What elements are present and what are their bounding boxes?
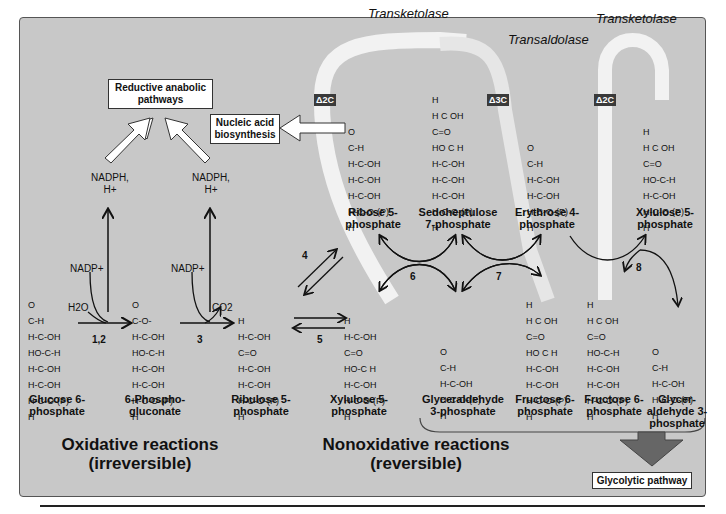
- nadp-label-2: NADP+: [171, 263, 205, 275]
- reaction-number-4: 4: [302, 250, 308, 261]
- label-ribulose-5-phosphate: Ribulose 5-phosphate: [228, 393, 294, 417]
- glycolytic-pathway-box: Glycolytic pathway: [592, 472, 692, 489]
- delta-3c-badge: Δ3C: [487, 94, 509, 106]
- nonoxidative-title: Nonoxidative reactions: [316, 435, 516, 454]
- nadp-label-1: NADP+: [70, 263, 104, 275]
- label-fructose-6-phosphate-1: Fructose 6-phosphate: [512, 393, 578, 417]
- label-ribose-5-phosphate: Ribose 5-phosphate: [340, 206, 406, 230]
- delta-2c-badge-2: Δ2C: [594, 94, 616, 106]
- label-erythrose-4-phosphate: Erythrose 4-phosphate: [512, 206, 582, 230]
- nucleic-acid-box: Nucleic acid biosynthesis: [210, 114, 280, 144]
- nadph-label-1: NADPH, H+: [85, 172, 135, 196]
- label-sedoheptulose-7-phosphate: Sedoheptulose 7-phosphate: [413, 206, 503, 230]
- label-fructose-6-phosphate-2: Fructose 6-phosphate: [581, 393, 647, 417]
- oxidative-title: Oxidative reactions: [40, 435, 240, 454]
- enzyme-transketolase-2: Transketolase: [596, 11, 677, 26]
- reaction-number-6: 6: [410, 271, 416, 282]
- label-xylulose-5-phosphate-top: Xylulose 5-phosphate: [632, 206, 698, 230]
- label-glucose-6-phosphate: Glucose 6-phosphate: [22, 393, 92, 417]
- reductive-pathways-box: Reductive anabolic pathways: [108, 79, 213, 109]
- delta-2c-badge-1: Δ2C: [314, 94, 336, 106]
- reaction-number-3: 3: [197, 334, 203, 345]
- reaction-number-8: 8: [636, 262, 642, 273]
- structure-xylulose-5-phosphate-bottom: HH-C-OHC=OHO-C HH-C-OHH-C-O-(P)H: [344, 281, 385, 441]
- enzyme-transaldolase: Transaldolase: [508, 32, 589, 47]
- oxidative-subtitle: (irreversible): [40, 454, 240, 473]
- reaction-number-7: 7: [496, 271, 502, 282]
- structure-ribulose-5-phosphate: HH-C-OHC=OH-C-OHH-C-OHH-C-O-(P)H: [238, 281, 279, 441]
- nonoxidative-section-title: Nonoxidative reactions (reversible): [316, 435, 516, 473]
- nonoxidative-subtitle: (reversible): [316, 454, 516, 473]
- oxidative-section-title: Oxidative reactions (irreversible): [40, 435, 240, 473]
- structure-glyceraldehyde-3-phosphate-1: OC-HH-C-OHH-C-O-(P)H: [440, 312, 481, 440]
- co2-label: CO2: [212, 302, 233, 314]
- label-xylulose-5-phosphate-bottom: Xylulose 5-phosphate: [326, 393, 392, 417]
- label-6-phosphogluconate: 6-Phospho-gluconate: [120, 393, 190, 417]
- reaction-number-1-2: 1,2: [92, 334, 106, 345]
- enzyme-transketolase-1: Transketolase: [368, 6, 449, 21]
- structure-erythrose-4-phosphate: OC-HH-C-OHH-C-OHH-C-O-(P)H: [527, 108, 568, 252]
- nadph-label-2: NADPH, H+: [186, 172, 236, 196]
- label-glyceraldehyde-3-phosphate-2: Glycer-aldehyde 3-phosphate: [645, 393, 709, 429]
- label-glyceraldehyde-3-phosphate-1: Glyceraldehyde 3-phosphate: [418, 393, 508, 417]
- reaction-number-5: 5: [317, 334, 323, 345]
- h2o-label: H2O: [68, 302, 89, 314]
